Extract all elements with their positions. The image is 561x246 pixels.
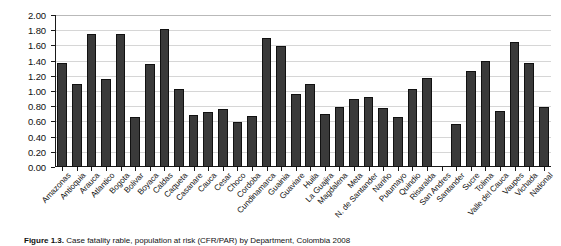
y-tick-label: 0.20: [28, 146, 46, 157]
bar: [130, 117, 140, 167]
bar: [87, 34, 97, 167]
bar: [291, 94, 301, 167]
bar: [451, 124, 461, 167]
bar: [524, 63, 534, 167]
bar: [233, 122, 243, 167]
bar: [466, 71, 476, 167]
bar: [539, 107, 549, 167]
y-tick-label: 1.00: [28, 86, 46, 97]
bar: [349, 99, 359, 167]
y-tick-label: 0.60: [28, 116, 46, 127]
bar: [495, 111, 505, 167]
bar: [247, 116, 257, 167]
bar: [101, 79, 111, 167]
y-tick-label: 1.40: [28, 55, 46, 66]
bars-layer: [55, 15, 551, 167]
bar: [189, 115, 199, 167]
bar: [364, 97, 374, 167]
caption-label: Figure 1.3.: [24, 236, 64, 245]
bar: [72, 84, 82, 167]
bar: [422, 78, 432, 167]
y-tick-label: 0.00: [28, 162, 46, 173]
bar: [393, 117, 403, 167]
x-axis-labels: AmazonasAntioquiaAraucaAtlanticoBogotaBo…: [55, 171, 561, 246]
bar: [320, 114, 330, 167]
bar: [305, 84, 315, 167]
y-tick-label: 0.40: [28, 131, 46, 142]
bar: [481, 61, 491, 167]
caption-text: Case fatality rable, population at risk …: [66, 236, 350, 245]
y-axis: 2.001.801.601.401.201.000.800.600.400.20…: [0, 0, 55, 167]
bar: [218, 109, 228, 167]
bar: [57, 63, 67, 167]
y-tick-label: 1.20: [28, 70, 46, 81]
y-tick-label: 1.80: [28, 25, 46, 36]
bar: [160, 29, 170, 167]
figure-caption: Figure 1.3. Case fatality rable, populat…: [24, 236, 544, 245]
bar: [145, 64, 155, 167]
bar: [335, 107, 345, 167]
bar: [203, 112, 213, 167]
bar: [408, 89, 418, 167]
bar: [378, 108, 388, 167]
bar: [174, 89, 184, 167]
y-tick-label: 2.00: [28, 10, 46, 21]
bar: [510, 42, 520, 167]
y-tick-label: 1.60: [28, 40, 46, 51]
bar: [276, 46, 286, 167]
bar: [116, 34, 126, 167]
y-tick-label: 0.80: [28, 101, 46, 112]
bar: [262, 38, 272, 167]
bar-chart: 2.001.801.601.401.201.000.800.600.400.20…: [0, 0, 561, 246]
